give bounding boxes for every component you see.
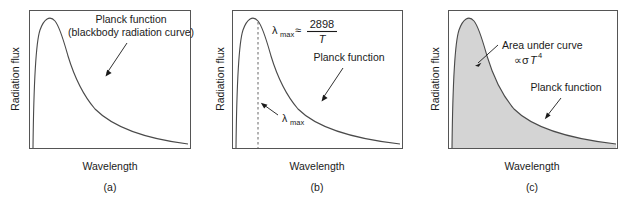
lambda-max-label-lambda: λ (282, 112, 288, 124)
formula-approx: ≈ (295, 24, 301, 36)
stefan-boltzmann-proportional: ∝σ (514, 54, 529, 66)
x-axis-title-a: Wavelength (82, 160, 137, 172)
planck-function-figure: Radiation flux Planck function (blackbod… (0, 0, 630, 202)
panel-caption-c: (c) (526, 181, 538, 193)
y-axis-title-c: Radiation flux (429, 46, 441, 110)
formula-lambda: λ (272, 24, 278, 36)
lambda-max-arrowhead (261, 103, 268, 109)
panel-c-svg: Radiation flux Area under curve ∝σ T 4 P… (420, 0, 630, 202)
panel-b: Radiation flux λ max ≈ 2898 T Planck fun… (205, 0, 420, 202)
formula-denominator: T (319, 33, 327, 45)
panel-c: Radiation flux Area under curve ∝σ T 4 P… (420, 0, 630, 202)
lambda-max-leader (264, 105, 278, 115)
planck-function-label-a-line1: Planck function (95, 13, 166, 25)
wien-law-formula: λ max ≈ 2898 T (272, 18, 337, 45)
panel-b-svg: Radiation flux λ max ≈ 2898 T Planck fun… (205, 0, 420, 202)
stefan-boltzmann-temperature: T (530, 54, 538, 66)
panel-a-svg: Radiation flux Planck function (blackbod… (0, 0, 205, 202)
formula-numerator: 2898 (310, 18, 334, 30)
panel-a: Radiation flux Planck function (blackbod… (0, 0, 205, 202)
lambda-max-label-subscript: max (290, 118, 304, 127)
x-axis-title-c: Wavelength (504, 160, 559, 172)
planck-label-leader-a (107, 43, 127, 73)
planck-function-label-a-line2: (blackbody radiation curve) (68, 26, 194, 38)
y-axis-title-b: Radiation flux (214, 46, 226, 110)
x-axis-title-b: Wavelength (289, 160, 344, 172)
formula-lambda-subscript: max (280, 30, 294, 39)
planck-function-label-c: Planck function (530, 81, 601, 93)
lambda-max-annotation: λ max (261, 103, 305, 127)
panel-caption-a: (a) (104, 181, 117, 193)
stefan-boltzmann-exponent: 4 (538, 51, 542, 60)
panel-caption-b: (b) (311, 181, 324, 193)
planck-function-label-b: Planck function (313, 51, 384, 63)
area-under-curve-label: Area under curve (502, 39, 583, 51)
planck-label-leader-c (547, 98, 561, 116)
planck-label-arrowhead-c (545, 113, 551, 120)
y-axis-title-a: Radiation flux (9, 46, 21, 110)
area-under-curve-annotation: Area under curve ∝σ T 4 (475, 39, 583, 67)
planck-label-leader-b (323, 68, 343, 98)
